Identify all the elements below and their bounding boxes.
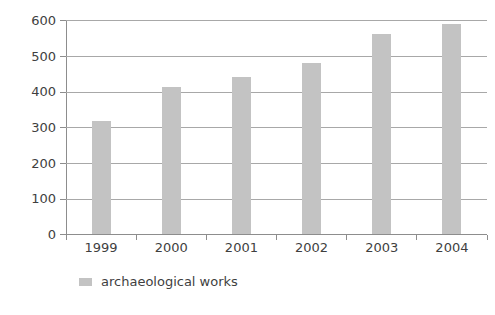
x-axis-tick-mark [416, 235, 417, 240]
legend-label: archaeological works [101, 275, 238, 289]
y-axis-tick-label: 400 [0, 85, 56, 98]
y-axis-tick-label: 500 [0, 50, 56, 63]
legend-swatch-icon [79, 278, 92, 286]
y-axis-tick-label: 300 [0, 121, 56, 134]
y-axis-tick-label: 200 [0, 157, 56, 170]
bar-2002 [302, 63, 321, 234]
chart-legend: archaeological works [79, 275, 238, 289]
x-axis-tick-label: 2004 [417, 241, 487, 255]
x-axis-tick-mark [346, 235, 347, 240]
gridline-400 [66, 92, 487, 93]
bar-2004 [442, 24, 461, 234]
bar-2001 [232, 77, 251, 234]
x-axis-tick-label: 2000 [136, 241, 206, 255]
y-axis-tick-label: 600 [0, 14, 56, 27]
y-axis-tick-label: 0 [0, 228, 56, 241]
x-axis-tick-mark [206, 235, 207, 240]
x-axis-tick-label: 2003 [347, 241, 417, 255]
bar-chart-figure: 600 500 400 300 200 100 0 1999 2000 2001… [0, 0, 495, 315]
gridline-600 [66, 20, 487, 21]
x-axis-tick-mark [276, 235, 277, 240]
x-axis-tick-mark [136, 235, 137, 240]
bar-2003 [372, 34, 391, 234]
x-axis-tick-mark [66, 235, 67, 240]
gridline-100 [66, 199, 487, 200]
gridline-300 [66, 127, 487, 128]
x-axis-tick-label: 2002 [277, 241, 347, 255]
plot-area [66, 20, 487, 234]
x-axis-tick-label: 2001 [206, 241, 276, 255]
gridline-200 [66, 163, 487, 164]
bar-1999 [92, 121, 111, 234]
gridline-500 [66, 56, 487, 57]
x-axis-tick-mark [487, 235, 488, 240]
x-axis-tick-label: 1999 [66, 241, 136, 255]
y-axis-tick-label: 100 [0, 192, 56, 205]
bar-2000 [162, 87, 181, 234]
